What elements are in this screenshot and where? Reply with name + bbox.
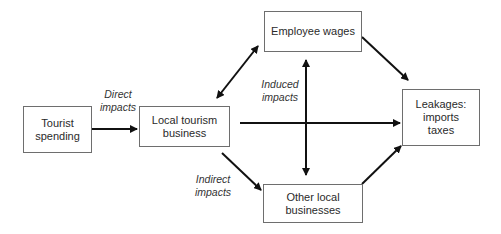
arrow-other-leakages — [362, 146, 401, 184]
label-line: Indirect — [190, 173, 236, 186]
node-label: imports — [416, 111, 467, 124]
node-label: Other local — [285, 191, 340, 204]
node-employee-wages: Employee wages — [264, 11, 362, 52]
node-label: business — [152, 127, 217, 140]
node-label: Leakages: — [416, 98, 467, 111]
label-direct-impacts: Direct impacts — [96, 88, 140, 114]
node-label: Tourist — [35, 117, 80, 130]
node-local-tourism-business: Local tourism business — [139, 106, 230, 147]
arrow-local-wages — [217, 46, 258, 98]
node-label: spending — [35, 130, 80, 143]
label-line: impacts — [258, 91, 302, 104]
node-other-local-businesses: Other local businesses — [263, 184, 363, 223]
node-leakages: Leakages: imports taxes — [402, 89, 480, 146]
label-line: Induced — [258, 78, 302, 91]
label-induced-impacts: Induced impacts — [258, 78, 302, 104]
arrow-wages-leakages — [362, 37, 408, 80]
node-label: Local tourism — [152, 114, 217, 127]
label-line: impacts — [190, 186, 236, 199]
label-line: impacts — [96, 101, 140, 114]
label-indirect-impacts: Indirect impacts — [190, 173, 236, 199]
node-tourist-spending: Tourist spending — [23, 106, 92, 153]
node-label: taxes — [416, 124, 467, 137]
label-line: Direct — [96, 88, 140, 101]
node-label: Employee wages — [271, 25, 355, 38]
node-label: businesses — [285, 204, 340, 217]
